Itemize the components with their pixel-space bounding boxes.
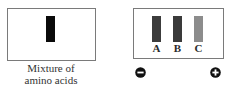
separated-gel-panel: A B C [133, 8, 224, 59]
band-label-b: B [171, 43, 184, 54]
band-label-c: C [192, 43, 205, 54]
caption-line-2: amino acids [6, 74, 96, 86]
mixture-caption: Mixture of amino acids [6, 62, 96, 86]
minus-circle-icon [135, 67, 146, 78]
plus-circle-icon [210, 67, 221, 78]
band-label-a: A [150, 43, 163, 54]
band-b [173, 16, 182, 42]
caption-line-1: Mixture of [6, 62, 96, 74]
mixture-gel-panel [7, 8, 96, 61]
band-a [152, 16, 161, 42]
band-c [194, 16, 203, 42]
mixture-band [46, 16, 55, 42]
